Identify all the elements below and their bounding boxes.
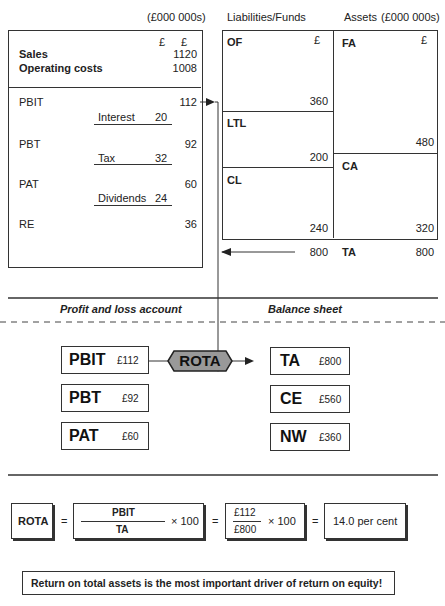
ratio-box-nw-label: NW	[280, 428, 307, 446]
formula-rota-box: ROTA	[11, 503, 53, 539]
ratio-box-ta: TA £800	[270, 347, 350, 375]
section-label-pl: Profit and loss account	[60, 303, 182, 315]
formula-times-100: × 100	[171, 515, 199, 527]
ratio-box-ce-label: CE	[280, 390, 302, 408]
ratio-box-ta-label: TA	[280, 352, 300, 370]
formula-num-value: £112	[234, 507, 256, 518]
formula-equals-1: =	[61, 515, 67, 527]
ratio-box-pat-value: £60	[122, 431, 139, 442]
formula-values-times-100: × 100	[268, 515, 296, 527]
ratio-box-pbit-value: £112	[117, 355, 139, 366]
formula-equals-2: =	[212, 515, 218, 527]
ratio-box-pbt-label: PBT	[69, 389, 101, 407]
formula-result-box: 14.0 per cent	[324, 503, 406, 539]
ratio-box-pat-label: PAT	[69, 427, 99, 445]
section-label-bs: Balance sheet	[268, 303, 342, 315]
ratio-box-pbt-value: £92	[122, 393, 139, 404]
formula-values-box: £112 £800 × 100	[225, 503, 305, 539]
formula-numerator: PBIT	[112, 507, 135, 518]
ratio-box-ta-value: £800	[319, 356, 341, 367]
formula-den-value: £800	[234, 524, 256, 535]
formula-rota-label: ROTA	[18, 515, 48, 527]
formula-denominator: TA	[116, 524, 129, 535]
ratio-box-pbit-label: PBIT	[69, 351, 105, 369]
formula-equals-3: =	[312, 515, 318, 527]
formula-result: 14.0 per cent	[333, 515, 397, 527]
formula-fraction-bar	[81, 521, 165, 522]
ratio-box-pbit: PBIT £112	[61, 346, 149, 374]
formula-ratio-box: PBIT TA × 100	[73, 503, 204, 539]
ratio-box-nw-value: £360	[319, 432, 341, 443]
conclusion-text: Return on total assets is the most impor…	[31, 577, 382, 589]
formula-values-bar	[233, 521, 261, 522]
ratio-box-pat: PAT £60	[61, 422, 149, 450]
ratio-box-pbt: PBT £92	[61, 384, 149, 412]
ratio-box-ce: CE £560	[270, 385, 350, 413]
ratio-box-nw: NW £360	[270, 423, 350, 451]
conclusion-box: Return on total assets is the most impor…	[22, 571, 395, 595]
rota-hexagon-label: ROTA	[168, 352, 232, 369]
ratio-box-ce-value: £560	[319, 394, 341, 405]
